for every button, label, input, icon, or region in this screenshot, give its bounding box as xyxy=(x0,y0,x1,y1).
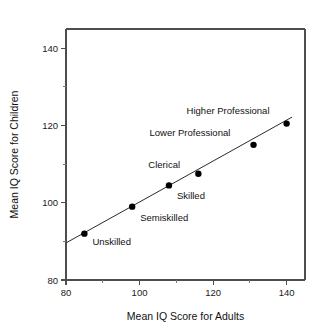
y-tick-label: 140 xyxy=(42,43,58,54)
data-point[interactable] xyxy=(166,182,172,188)
y-axis-title: Mean IQ Score for Children xyxy=(8,90,20,218)
x-tick-label: 140 xyxy=(279,287,295,298)
data-point-label: Unskilled xyxy=(92,236,131,247)
y-tick-label: 80 xyxy=(47,275,58,286)
x-tick-label: 100 xyxy=(132,287,148,298)
data-point[interactable] xyxy=(195,171,201,177)
x-axis-title: Mean IQ Score for Adults xyxy=(127,310,244,322)
data-point-label: Skilled xyxy=(177,190,205,201)
data-point[interactable] xyxy=(129,203,135,209)
x-tick-label: 120 xyxy=(205,287,221,298)
chart-canvas: 8010012014080100120140UnskilledSemiskill… xyxy=(0,0,329,334)
data-point-label: Lower Professional xyxy=(150,127,231,138)
data-point[interactable] xyxy=(283,120,289,126)
y-tick-label: 120 xyxy=(42,120,58,131)
data-point[interactable] xyxy=(250,142,256,148)
data-point-label: Clerical xyxy=(148,159,180,170)
x-tick-label: 80 xyxy=(61,287,72,298)
data-point-label: Higher Professional xyxy=(187,105,270,116)
data-point[interactable] xyxy=(81,230,87,236)
scatter-chart: 8010012014080100120140UnskilledSemiskill… xyxy=(0,0,329,334)
y-tick-label: 100 xyxy=(42,197,58,208)
data-point-label: Semiskilled xyxy=(140,212,188,223)
